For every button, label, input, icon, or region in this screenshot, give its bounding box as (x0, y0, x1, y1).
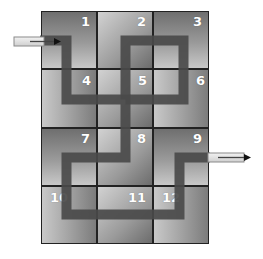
exit-arrow (208, 153, 251, 162)
maze-path (40, 41, 210, 215)
maze-diagram: 123456789101112 (0, 0, 263, 259)
path-segment-loop (126, 41, 184, 100)
maze-path-overlay (0, 0, 263, 259)
